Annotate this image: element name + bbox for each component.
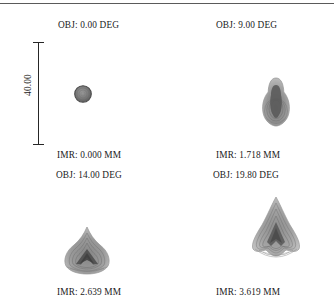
field-3-imr-label: IMR: 2.639 MM <box>57 287 121 298</box>
field-3-spot-pattern <box>58 222 116 278</box>
scale-bar-cap-bottom <box>33 144 44 145</box>
field-4-obj-label: OBJ: 19.80 DEG <box>213 170 279 181</box>
field-1-imr-label: IMR: 0.000 MM <box>57 150 121 161</box>
field-4-spot-pattern <box>245 192 307 274</box>
scale-bar-cap-top <box>33 42 44 43</box>
field-2-obj-label: OBJ: 9.00 DEG <box>216 20 277 31</box>
top-divider-rule <box>0 3 334 4</box>
scale-bar-label: 40.00 <box>23 55 33 115</box>
field-2-imr-label: IMR: 1.718 MM <box>216 150 280 161</box>
field-3-obj-label: OBJ: 14.00 DEG <box>56 170 122 181</box>
spot-diagram-figure: 40.00 OBJ: 0.00 DEG IMR: 0.000 MM OBJ: 9… <box>0 0 334 306</box>
field-1-spot-pattern <box>70 81 96 107</box>
field-1-obj-label: OBJ: 0.00 DEG <box>58 20 119 31</box>
field-2-spot-pattern <box>258 74 294 130</box>
scale-bar-line <box>38 42 39 145</box>
field-4-imr-label: IMR: 3.619 MM <box>216 287 280 298</box>
